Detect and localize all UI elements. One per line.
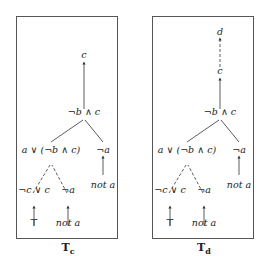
panel-tc: c ¬b ∧ c a ∨ (¬b ∧ c) ¬a not a ¬c ∨ c ¬a… — [16, 16, 118, 239]
node-right-not-a: not a — [227, 180, 251, 190]
node-ll-disj: ¬c ∨ c — [18, 185, 50, 195]
node-right-neg-a: ¬a — [232, 145, 246, 155]
node-top-symbol: ⊤ — [166, 218, 175, 228]
caption-tc: Tc — [61, 242, 74, 255]
node-left-disj: a ∨ (¬b ∧ c) — [158, 145, 216, 155]
node-conj: ¬b ∧ c — [68, 107, 100, 117]
node-lr-neg-a: ¬a — [197, 185, 211, 195]
node-d: d — [217, 27, 223, 37]
node-right-not-a: not a — [91, 180, 115, 190]
tree-edges-tc — [17, 17, 119, 240]
node-lr-neg-a: ¬a — [61, 185, 75, 195]
node-ll-disj: ¬c ∨ c — [154, 185, 186, 195]
node-conj: ¬b ∧ c — [204, 107, 236, 117]
panel-td: d c ¬b ∧ c a ∨ (¬b ∧ c) ¬a not a ¬c ∨ c … — [152, 16, 254, 239]
node-c: c — [217, 66, 222, 76]
node-left-disj: a ∨ (¬b ∧ c) — [22, 145, 80, 155]
node-top-symbol: ⊤ — [30, 218, 39, 228]
caption-td: Td — [197, 242, 211, 255]
node-right-neg-a: ¬a — [96, 145, 110, 155]
tree-edges-td — [153, 17, 255, 240]
node-lr-not-a: not a — [56, 218, 80, 228]
node-lr-not-a: not a — [192, 218, 216, 228]
node-c: c — [81, 50, 86, 60]
